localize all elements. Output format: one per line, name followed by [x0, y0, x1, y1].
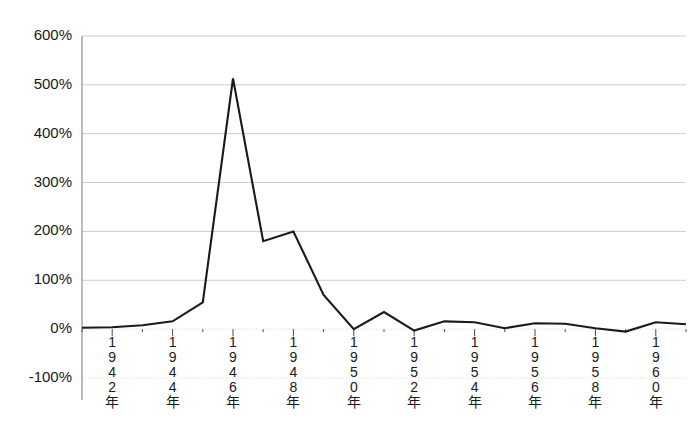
y-axis-tick-labels: 600%500%400%300%200%100%0%-100% — [29, 26, 72, 385]
x-axis-tick-label-char: 9 — [169, 349, 177, 365]
x-axis-tick-label: 1954年 — [468, 334, 482, 410]
x-axis-tick-label-char: 9 — [652, 349, 660, 365]
x-axis-tick-label-char: 6 — [229, 379, 237, 395]
x-axis-tick-label-char: 6 — [531, 379, 539, 395]
x-axis-tick-label-char: 2 — [108, 379, 116, 395]
y-axis-tick-label: 200% — [34, 221, 72, 238]
data-series-line — [82, 79, 686, 332]
x-axis-tick-label-char: 4 — [229, 364, 237, 380]
x-axis-tick-label-char: 1 — [108, 334, 116, 350]
y-axis-tick-label: 500% — [34, 75, 72, 92]
y-axis-tick-label: 0% — [50, 319, 72, 336]
x-axis-tick-label-char: 年 — [588, 394, 602, 410]
x-axis-tick-label-char: 4 — [290, 364, 298, 380]
x-axis-tick-label-char: 1 — [471, 334, 479, 350]
x-axis-tick-label-char: 8 — [290, 379, 298, 395]
y-axis-tick-label: 600% — [34, 26, 72, 43]
x-axis-tick-label: 1952年 — [407, 334, 421, 410]
x-axis-tick-label-char: 5 — [531, 364, 539, 380]
x-axis-tick-label-char: 年 — [105, 394, 119, 410]
x-axis-tick-label: 1960年 — [649, 334, 663, 410]
x-axis-tick-label-char: 9 — [471, 349, 479, 365]
x-axis-tick-label: 1950年 — [347, 334, 361, 410]
line-chart: 600%500%400%300%200%100%0%-100% 1942年194… — [0, 0, 696, 427]
x-axis-tick-label-char: 2 — [410, 379, 418, 395]
x-axis-tick-label-char: 0 — [350, 379, 358, 395]
y-axis-tick-label: 400% — [34, 124, 72, 141]
x-axis-tick-label: 1958年 — [588, 334, 602, 410]
x-axis-tick-label-char: 8 — [592, 379, 600, 395]
x-axis-tick-label-char: 4 — [169, 379, 177, 395]
x-axis-tick-label-char: 1 — [531, 334, 539, 350]
x-axis-tick-label-char: 1 — [652, 334, 660, 350]
x-axis-tick-label-char: 5 — [410, 364, 418, 380]
x-axis-tick-label-char: 年 — [347, 394, 361, 410]
x-axis-tick-label-char: 4 — [471, 379, 479, 395]
x-axis-tick-label-char: 1 — [169, 334, 177, 350]
gridlines-group — [82, 36, 686, 378]
x-axis-tick-label-char: 5 — [592, 364, 600, 380]
x-axis-tick-label: 1944年 — [166, 334, 180, 410]
x-axis-tick-label: 1942年 — [105, 334, 119, 410]
x-axis-tick-label-char: 6 — [652, 364, 660, 380]
x-axis-tick-label-char: 9 — [531, 349, 539, 365]
x-axis-tick-label-char: 1 — [592, 334, 600, 350]
x-axis-tick-label-char: 1 — [290, 334, 298, 350]
x-axis-tick-label-char: 9 — [410, 349, 418, 365]
x-axis-tick-labels: 1942年1944年1946年1948年1950年1952年1954年1956年… — [105, 334, 663, 410]
x-axis-tick-label-char: 1 — [350, 334, 358, 350]
x-axis-tick-label-char: 9 — [108, 349, 116, 365]
x-axis-tick-label-char: 4 — [169, 364, 177, 380]
x-axis-tick-label-char: 年 — [166, 394, 180, 410]
y-axis-tick-label: -100% — [29, 368, 72, 385]
x-axis-tick-label-char: 4 — [108, 364, 116, 380]
x-axis-tick-label: 1946年 — [226, 334, 240, 410]
x-axis-tick-label-char: 9 — [229, 349, 237, 365]
x-axis-tick-label: 1956年 — [528, 334, 542, 410]
x-axis-tick-label: 1948年 — [286, 334, 300, 410]
x-axis-tick-label-char: 0 — [652, 379, 660, 395]
x-axis-tick-label-char: 1 — [229, 334, 237, 350]
x-axis-tick-label-char: 年 — [286, 394, 300, 410]
x-axis-tick-label-char: 5 — [471, 364, 479, 380]
x-axis-tick-label-char: 年 — [528, 394, 542, 410]
x-axis-tick-label-char: 9 — [290, 349, 298, 365]
x-axis-tick-label-char: 年 — [649, 394, 663, 410]
x-axis-tick-label-char: 年 — [226, 394, 240, 410]
x-axis-tick-label-char: 年 — [407, 394, 421, 410]
x-axis-tick-label-char: 年 — [468, 394, 482, 410]
x-axis-tick-label-char: 5 — [350, 364, 358, 380]
chart-container: 600%500%400%300%200%100%0%-100% 1942年194… — [0, 0, 696, 427]
x-axis-tick-label-char: 9 — [350, 349, 358, 365]
y-axis-tick-label: 300% — [34, 173, 72, 190]
x-axis-tick-label-char: 1 — [410, 334, 418, 350]
x-axis-tick-label-char: 9 — [592, 349, 600, 365]
y-axis-tick-label: 100% — [34, 270, 72, 287]
